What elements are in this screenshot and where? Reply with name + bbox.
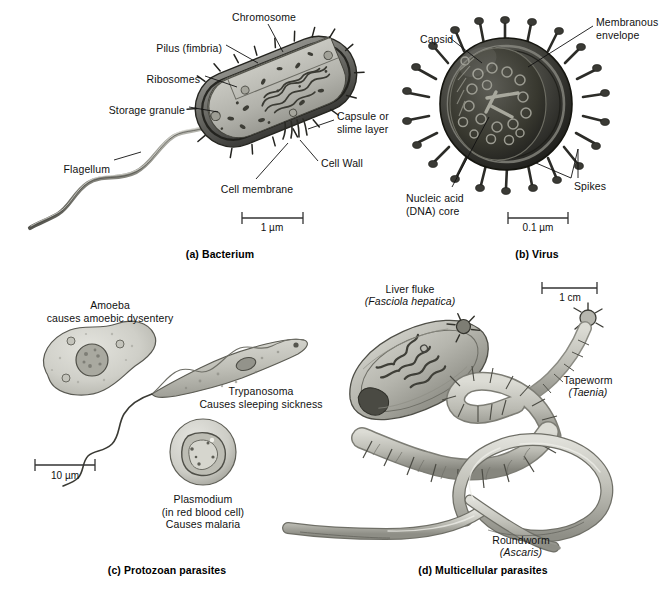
label-storage-granule: Storage granule	[109, 104, 185, 117]
label-amoeba: Amoeba causes amoebic dysentery	[47, 299, 174, 324]
label-membranous-envelope: Membranous envelope	[596, 16, 658, 41]
amoeba-nucleus	[76, 344, 108, 376]
label-liver-fluke-species: (Fasciola hepatica)	[365, 295, 456, 308]
panel-caption-b: (b) Virus	[515, 248, 558, 260]
label-flagellum: Flagellum	[64, 163, 110, 176]
label-spikes: Spikes	[574, 180, 606, 193]
scale-label-b: 0.1 µm	[523, 222, 554, 233]
label-roundworm-species: (Ascaris)	[500, 546, 542, 559]
label-chromosome: Chromosome	[232, 11, 296, 24]
panel-caption-d: (d) Multicellular parasites	[418, 564, 547, 576]
scale-label-c: 10 µm	[51, 470, 79, 481]
scale-label-d: 1 cm	[559, 292, 581, 303]
scale-label-a: 1 µm	[261, 222, 283, 233]
panel-caption-a: (a) Bacterium	[186, 248, 254, 260]
label-plasmodium: Plasmodium (in red blood cell) Causes ma…	[162, 493, 244, 531]
panel-caption-c: (c) Protozoan parasites	[108, 564, 226, 576]
figure-pathogen-types: Chromosome Pilus (fimbria) Ribosomes Sto…	[0, 0, 671, 595]
amoeba-shape	[43, 321, 155, 395]
label-trypanosoma: Trypanosoma Causes sleeping sickness	[199, 385, 322, 410]
label-capsid: Capsid	[420, 33, 453, 46]
label-nucleic-acid-core: Nucleic acid (DNA) core	[406, 192, 464, 217]
multicellular-illustration	[288, 302, 607, 548]
label-roundworm-common: Roundworm	[492, 534, 550, 547]
label-cell-wall: Cell Wall	[321, 157, 363, 170]
plasmodium-shape	[170, 419, 236, 485]
label-pilus: Pilus (fimbria)	[156, 42, 222, 55]
label-tapeworm-species: (Taenia)	[569, 386, 608, 399]
flagellum-shape	[30, 123, 214, 228]
label-capsule-slime-layer: Capsule or slime layer	[337, 110, 389, 135]
label-liver-fluke-common: Liver fluke	[386, 283, 435, 296]
label-tapeworm-common: Tapeworm	[563, 374, 612, 387]
label-cell-membrane: Cell membrane	[221, 183, 294, 196]
roundworm-shape	[288, 440, 607, 548]
label-ribosomes: Ribosomes	[147, 73, 200, 86]
